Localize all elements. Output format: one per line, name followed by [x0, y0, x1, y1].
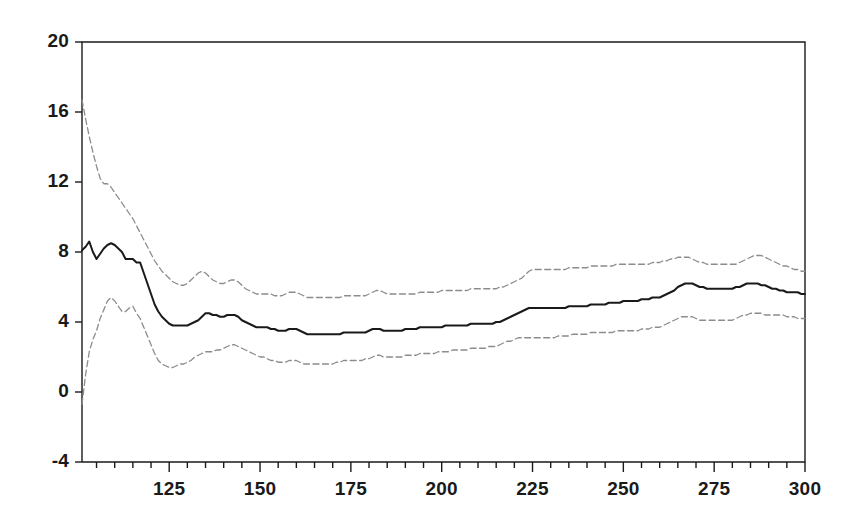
y-axis-tick-label: 12 — [47, 170, 69, 192]
x-axis-tick-label: 225 — [493, 478, 573, 500]
x-axis-tick-label: 150 — [220, 478, 300, 500]
chart-plot-area — [0, 0, 857, 532]
series-line-2 — [82, 298, 805, 405]
y-axis-tick-label: 4 — [58, 310, 69, 332]
x-axis-tick-label: 200 — [402, 478, 482, 500]
y-axis-tick-label: 16 — [47, 100, 69, 122]
x-axis-tick-label: 275 — [674, 478, 754, 500]
chart-figure: -4048121620125150175200225250275300 — [0, 0, 857, 532]
y-axis-tick-label: 20 — [47, 30, 69, 52]
y-axis-tick-label: 0 — [58, 380, 69, 402]
x-axis-tick-label: 250 — [583, 478, 663, 500]
x-axis-tick-label: 300 — [765, 478, 845, 500]
series-line-0 — [82, 100, 805, 298]
x-axis-tick-label: 175 — [311, 478, 391, 500]
y-axis-tick-label: -4 — [52, 450, 69, 472]
y-axis-tick-label: 8 — [58, 240, 69, 262]
series-line-1 — [82, 242, 805, 335]
plot-frame — [82, 42, 805, 462]
x-axis-tick-label: 125 — [129, 478, 209, 500]
